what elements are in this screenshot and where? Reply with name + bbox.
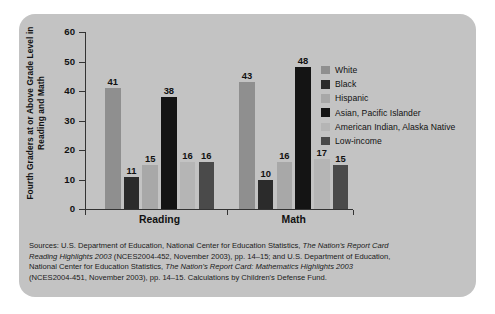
bar-chart: Fourth Graders at or Above Grade Level i… (19, 14, 476, 236)
bar-value-label: 38 (156, 85, 182, 96)
y-tick-30 (79, 121, 86, 122)
chart-legend: WhiteBlackHispanicAsian, Pacific Islande… (321, 63, 473, 148)
bar-value-label: 43 (234, 70, 260, 81)
legend-item-black[interactable]: Black (321, 77, 473, 91)
source-line-1-italic: The Nation's Report Card (303, 241, 389, 250)
bar-math-asian-pacific-islander (295, 67, 311, 209)
group-label-math: Math (254, 214, 334, 225)
y-tick-label-50: 50 (47, 56, 75, 67)
x-axis-line (85, 209, 353, 210)
legend-swatch-icon (321, 108, 330, 117)
bar-value-label: 16 (272, 150, 298, 161)
source-line-3-italic: The Nation's Report Card: Mathematics Hi… (165, 262, 353, 271)
x-tick-2 (353, 210, 354, 215)
y-tick-label-40: 40 (47, 85, 75, 96)
legend-item-white[interactable]: White (321, 63, 473, 77)
source-line-2-text: (NCES2004-452, November 2003), pp. 14–15… (112, 252, 391, 261)
group-label-reading: Reading (120, 214, 200, 225)
y-tick-label-30: 30 (47, 115, 75, 126)
legend-swatch-icon (321, 94, 330, 103)
y-tick-50 (79, 62, 86, 63)
y-tick-40 (79, 91, 86, 92)
y-tick-label-60: 60 (47, 26, 75, 37)
bar-math-white (239, 82, 255, 209)
bar-reading-white (105, 88, 121, 209)
legend-swatch-icon (321, 66, 330, 75)
legend-label: American Indian, Alaska Native (335, 122, 455, 132)
bar-value-label: 48 (290, 55, 316, 66)
y-tick-label-10: 10 (47, 174, 75, 185)
bar-reading-low-income (199, 162, 215, 209)
bar-reading-black (124, 177, 140, 209)
source-line-1-text: Sources: U.S. Department of Education, N… (29, 241, 303, 250)
bar-value-label: 15 (328, 153, 354, 164)
y-tick-20 (79, 150, 86, 151)
bar-reading-hispanic (142, 165, 158, 209)
legend-label: Hispanic (335, 93, 368, 103)
bar-reading-american-indian-alaska-native (180, 162, 196, 209)
legend-swatch-icon (321, 137, 330, 146)
legend-label: Asian, Pacific Islander (335, 108, 421, 118)
bar-value-label: 11 (119, 165, 145, 176)
y-tick-label-20: 20 (47, 144, 75, 155)
plot-area: 0102030405060 411115381616431016481715 (65, 32, 355, 222)
legend-item-american-indian-alaska-native[interactable]: American Indian, Alaska Native (321, 120, 473, 134)
bar-value-label: 41 (100, 76, 126, 87)
source-line-4: (NCES2004-451, November 2003), pp. 14–15… (29, 273, 469, 284)
bar-math-black (258, 180, 274, 210)
x-tick-1 (227, 210, 228, 215)
legend-label: White (335, 65, 357, 75)
bar-math-low-income (333, 165, 349, 209)
legend-label: Black (335, 79, 356, 89)
y-tick-10 (79, 180, 86, 181)
figure-card: Fourth Graders at or Above Grade Level i… (19, 14, 476, 297)
legend-item-low-income[interactable]: Low-income (321, 134, 473, 148)
legend-swatch-icon (321, 80, 330, 89)
source-line-3: National Center for Education Statistics… (29, 262, 469, 273)
x-tick-0 (85, 210, 86, 215)
y-tick-label-0: 0 (47, 203, 75, 214)
y-tick-60 (79, 32, 86, 33)
source-line-2-italic: Reading Highlights 2003 (29, 252, 112, 261)
legend-item-asian-pacific-islander[interactable]: Asian, Pacific Islander (321, 106, 473, 120)
bar-value-label: 16 (194, 150, 220, 161)
source-line-3-text: National Center for Education Statistics… (29, 262, 165, 271)
bar-math-hispanic (277, 162, 293, 209)
legend-label: Low-income (335, 136, 382, 146)
source-line-2: Reading Highlights 2003 (NCES2004-452, N… (29, 252, 469, 263)
source-note: Sources: U.S. Department of Education, N… (29, 241, 469, 283)
bar-value-label: 10 (253, 168, 279, 179)
bar-value-label: 15 (137, 153, 163, 164)
legend-item-hispanic[interactable]: Hispanic (321, 91, 473, 105)
bar-math-american-indian-alaska-native (314, 159, 330, 209)
legend-swatch-icon (321, 123, 330, 132)
source-line-1: Sources: U.S. Department of Education, N… (29, 241, 469, 252)
